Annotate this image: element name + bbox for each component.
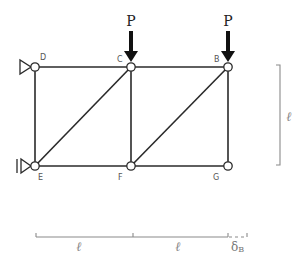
member-ec	[35, 67, 131, 166]
member-fb	[131, 67, 228, 166]
load-label-b: P	[223, 13, 232, 29]
load-arrow-shaft	[226, 31, 230, 52]
load-arrow-shaft	[129, 31, 133, 52]
load-at-c: P	[124, 13, 138, 62]
load-at-b: P	[221, 13, 235, 62]
roller-support-icon	[21, 159, 31, 173]
node-c	[127, 63, 135, 71]
load-label-c: P	[126, 13, 135, 29]
node-e	[31, 162, 39, 170]
horizontal-dimension: ℓ ℓ δB	[36, 233, 247, 254]
roller-support-e	[17, 159, 31, 173]
node-label-c: C	[117, 55, 123, 64]
horizontal-length-label-2: ℓ	[175, 239, 181, 254]
node-label-f: F	[118, 173, 123, 182]
vertical-dimension: ℓ	[276, 65, 292, 165]
node-d	[31, 63, 39, 71]
load-arrow-head-icon	[124, 51, 138, 62]
node-label-b: B	[214, 55, 220, 64]
node-label-d: D	[40, 53, 46, 62]
vertical-dimension-bracket	[276, 65, 280, 165]
vertical-length-label: ℓ	[286, 109, 292, 124]
node-g	[224, 162, 232, 170]
deflection-label: δB	[231, 240, 244, 254]
pin-support-icon	[20, 60, 31, 74]
node-f	[127, 162, 135, 170]
deflection-symbol: δ	[231, 240, 238, 254]
truss-members	[35, 67, 228, 166]
node-b	[224, 63, 232, 71]
deflection-subscript: B	[238, 245, 244, 254]
pin-support-d	[20, 60, 31, 74]
node-label-g: G	[213, 173, 219, 182]
truss-diagram: P P D C B E F G ℓ ℓ ℓ δB	[0, 0, 302, 271]
node-label-e: E	[38, 173, 43, 182]
load-arrow-head-icon	[221, 51, 235, 62]
horizontal-length-label-1: ℓ	[76, 239, 82, 254]
